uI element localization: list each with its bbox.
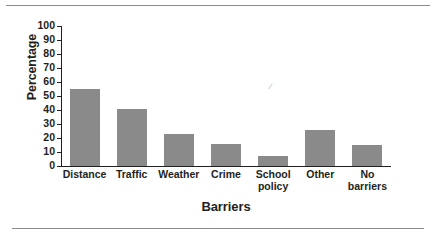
- y-tick-label: 0: [49, 159, 55, 172]
- bar-series: [61, 26, 391, 166]
- top-divider-rule: [6, 5, 430, 6]
- x-tick-label: Other: [297, 169, 344, 181]
- y-tick-label: 100: [37, 19, 55, 32]
- bar: [164, 134, 194, 166]
- x-tick-label: Crime: [202, 169, 249, 181]
- bar: [117, 109, 147, 166]
- scan-speck-artifact: ⁄: [270, 84, 274, 89]
- bar: [70, 89, 100, 166]
- y-tick-label: 30: [43, 117, 55, 130]
- y-tick-label: 20: [43, 131, 55, 144]
- x-tick-label: Distance: [61, 169, 108, 181]
- y-tick-label: 10: [43, 145, 55, 158]
- x-tick-label: No barriers: [344, 169, 391, 192]
- x-tick-label: Traffic: [108, 169, 155, 181]
- plot-area: 1009080706050403020100: [61, 26, 391, 166]
- y-tick-label: 60: [43, 75, 55, 88]
- x-tick-label: School policy: [250, 169, 297, 192]
- bar: [352, 145, 382, 166]
- y-tick-label: 70: [43, 61, 55, 74]
- bar: [211, 144, 241, 166]
- y-tick-label: 50: [43, 89, 55, 102]
- y-tick-label: 40: [43, 103, 55, 116]
- bar: [258, 156, 288, 166]
- y-tick-mark: [57, 166, 61, 167]
- bottom-divider-rule: [12, 228, 424, 229]
- x-axis-tick-labels: DistanceTrafficWeatherCrimeSchool policy…: [61, 169, 391, 195]
- x-axis-title: Barriers: [61, 199, 391, 214]
- bar-chart-figure: Percentage 1009080706050403020100 Distan…: [0, 0, 434, 234]
- x-tick-label: Weather: [155, 169, 202, 181]
- y-tick-label: 90: [43, 33, 55, 46]
- y-tick-label: 80: [43, 47, 55, 60]
- bar: [305, 130, 335, 166]
